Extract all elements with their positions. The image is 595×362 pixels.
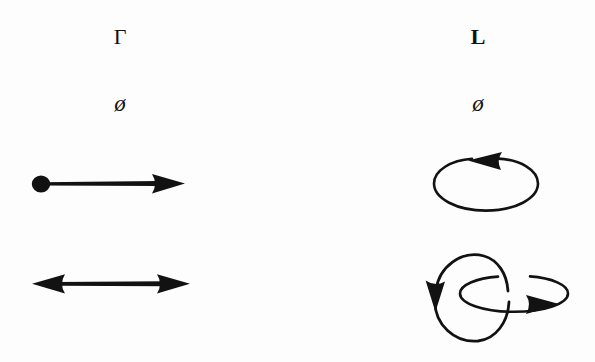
diagram-interlocked-loops <box>418 240 576 348</box>
diagram-dot-arrow-right <box>30 166 195 202</box>
column-sublabel-gamma: ø <box>95 92 145 115</box>
column-header-gamma: Γ <box>95 26 145 48</box>
column-sublabel-l: ø <box>453 92 503 115</box>
diagram-double-headed-arrow <box>26 266 198 302</box>
column-header-l: L <box>453 26 503 48</box>
figure-canvas: Γ ø L ø <box>0 0 595 362</box>
diagram-single-loop <box>428 150 546 220</box>
